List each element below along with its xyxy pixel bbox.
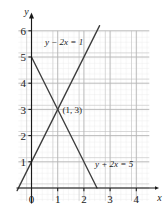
x-tick-label-0: 0 bbox=[29, 193, 35, 205]
equation-label-2: y + 2x = 5 bbox=[94, 159, 134, 169]
x-tick-label-2: 2 bbox=[81, 193, 87, 205]
y-tick-label-2: 2 bbox=[21, 130, 27, 142]
y-tick-label-5: 5 bbox=[21, 51, 27, 63]
coordinate-plane-svg: 1 2 3 4 5 6 0 1 2 3 4 y x y − 2x = 1 y +… bbox=[0, 0, 167, 224]
y-tick-label-6: 6 bbox=[21, 25, 27, 37]
y-tick-label-1: 1 bbox=[21, 156, 27, 168]
x-tick-label-4: 4 bbox=[134, 193, 140, 205]
math-graph-figure: 1 2 3 4 5 6 0 1 2 3 4 y x y − 2x = 1 y +… bbox=[0, 0, 167, 224]
equation-label-1: y − 2x = 1 bbox=[44, 37, 83, 47]
y-tick-label-4: 4 bbox=[21, 77, 27, 89]
x-tick-label-3: 3 bbox=[107, 193, 113, 205]
y-tick-label-3: 3 bbox=[21, 104, 27, 116]
x-tick-label-1: 1 bbox=[55, 193, 61, 205]
y-axis-label: y bbox=[23, 6, 29, 17]
x-axis-label: x bbox=[156, 192, 162, 203]
intersection-point-label: (1, 3) bbox=[63, 105, 83, 115]
